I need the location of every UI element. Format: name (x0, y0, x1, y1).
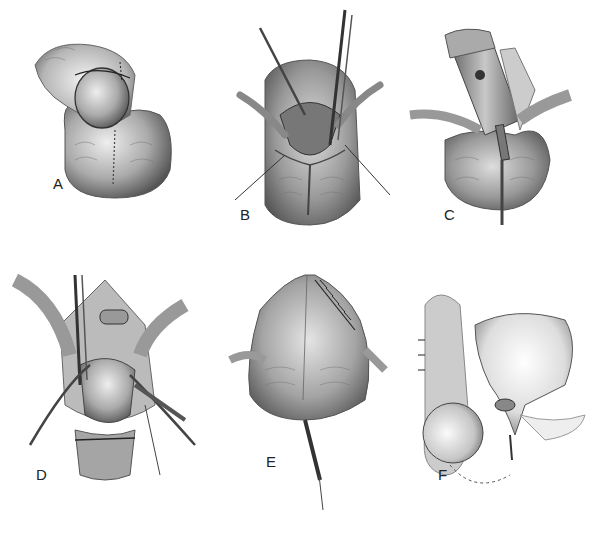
surgical-figure: A B (0, 0, 595, 535)
panel-c (405, 10, 595, 230)
panel-d-label: D (36, 467, 47, 482)
panel-b-illustration (220, 0, 400, 230)
panel-e-label: E (266, 454, 276, 469)
panel-c-label: C (444, 207, 455, 222)
panel-b-label: B (240, 207, 250, 222)
panel-b (220, 0, 400, 230)
panel-a (30, 20, 200, 200)
panel-a-illustration (30, 20, 200, 200)
panel-f-illustration (415, 285, 595, 490)
figure-caption (38, 522, 558, 532)
panel-d (10, 265, 210, 490)
panel-e-illustration (225, 270, 400, 500)
panel-a-label: A (53, 176, 63, 191)
panel-f-label: F (438, 467, 447, 482)
panel-c-illustration (405, 10, 595, 230)
panel-e (225, 270, 400, 500)
panel-d-illustration (10, 265, 210, 490)
panel-f (415, 285, 595, 490)
